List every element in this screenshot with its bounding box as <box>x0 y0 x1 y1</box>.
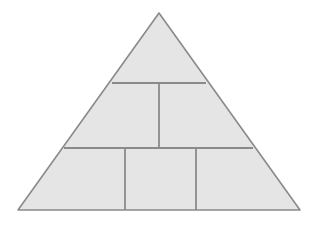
pyramid-diagram <box>0 0 319 225</box>
diagram-canvas <box>0 0 319 225</box>
